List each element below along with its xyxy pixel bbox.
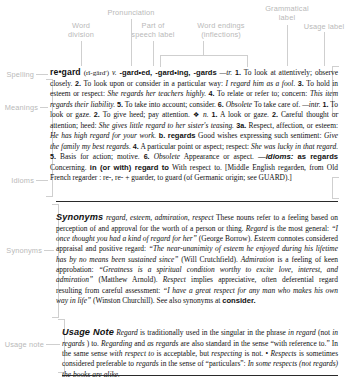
sense-text: To give heed; pay attention. (103, 110, 190, 119)
usage-text: is traditionally used in the singular in… (140, 328, 286, 337)
sense-number: 5. (117, 100, 123, 109)
synonym-attribution: (Matthew Arnold). (98, 275, 157, 284)
sense-example: She was lucky in that regard. (251, 142, 338, 151)
sense-number: 1. (322, 100, 328, 109)
synonyms-heading: Synonyms (56, 212, 103, 222)
leader-word-endings (203, 41, 204, 55)
sense-example: He has high regard for your work. (50, 131, 156, 140)
sense-number: 4. (133, 142, 139, 151)
sense-text: To relate or refer to; concern: (217, 89, 307, 98)
sense-number: 1. (212, 110, 218, 119)
divider-synonyms (56, 201, 338, 202)
idiom-phrase: in (or with) regard to (90, 163, 169, 172)
divider-bottom (62, 375, 338, 376)
dictionary-entry: re•gard (rĭ-gärd′) v. -gard•ed, -gard•in… (50, 67, 338, 184)
leader-spelling (36, 74, 48, 75)
usage-text: in the sense of “particulars”: (161, 359, 246, 368)
see-also-text: See also synonyms at (157, 296, 221, 305)
idioms-heading: —idioms: (258, 152, 294, 161)
sense-example: She regards her teachers highly. (108, 89, 207, 98)
leader-pronunciation (131, 19, 132, 66)
sense-text: A look or gaze. (220, 110, 269, 119)
callout-synonyms: Synonyms (0, 246, 42, 255)
transitive-label: —tr. (220, 68, 233, 77)
sense-number: 2. (75, 79, 81, 88)
sense-number: b. (159, 131, 165, 140)
sense-text: Respect, affection, or esteem: (249, 121, 338, 130)
intransitive-label: —intr. (302, 100, 320, 109)
usage-text: is acceptable, but (157, 349, 209, 358)
callout-meanings: Meanings (0, 103, 38, 112)
synonym-text: is the most general: (270, 224, 329, 233)
synonyms-list: regard, esteem, admiration, respect (106, 213, 214, 222)
callout-usage-note: Usage note (0, 340, 44, 349)
part-of-speech-label: v. (112, 68, 117, 77)
sense-number: 5. (50, 152, 56, 161)
sense-number: 3a. (236, 121, 246, 130)
synonym-word: Admiration (241, 255, 275, 264)
sense-text: To take care of. (254, 100, 300, 109)
usage-text: ) to. (87, 339, 99, 348)
usage-phrase: Regarding (101, 339, 132, 348)
synonym-attribution: (George Borrow). (199, 234, 252, 243)
synonym-word: Respect (163, 275, 186, 284)
sense-number: 3. (298, 79, 304, 88)
leader-part-of-speech (153, 41, 154, 66)
callout-pronunciation: Pronunciation (94, 8, 168, 17)
inflections: -gard•ed, -gard•ing, -gards (120, 68, 217, 77)
bracket-word-endings (160, 55, 248, 67)
idiom-definition: Concerning. (50, 163, 87, 172)
sense-text: Basis for action; motive. (60, 152, 140, 161)
callout-usage-label: Usage label (297, 22, 351, 31)
usage-phrase: with respect to (110, 349, 155, 358)
sense-number: 2. (272, 110, 278, 119)
synonym-word: Esteem (254, 234, 275, 243)
leader-word-division (81, 41, 82, 66)
usage-phrase: as regards (147, 339, 178, 348)
sense-text: To take into account; consider. (125, 100, 216, 109)
synonyms-section: Synonyms regard, esteem, admiration, res… (56, 205, 338, 314)
pronunciation: (rĭ-gärd′) (84, 69, 110, 77)
usage-text: (not (318, 328, 330, 337)
synonym-attribution: (Will Crutchfield). (181, 255, 237, 264)
leader-grammatical-label (287, 25, 288, 66)
leader-usage-label (324, 32, 325, 66)
callout-word-division: Word division (54, 21, 108, 39)
usage-phrase: in regard (288, 328, 316, 337)
sense-bold-word: regards (168, 131, 196, 140)
idiom-phrase: as regards (297, 152, 338, 161)
usage-label: Obsolete (154, 152, 180, 161)
sense-text: Appearance or aspect. (184, 152, 254, 161)
sense-number: 6. (144, 152, 150, 161)
usage-phrase: respecting (211, 349, 242, 358)
noun-bullet: ❖ (193, 110, 200, 119)
usage-label: Obsolete (226, 100, 252, 109)
sense-text: A particular point or aspect; respect: (140, 142, 249, 151)
noun-label: n. (203, 110, 209, 119)
sense-number: 2. (94, 110, 100, 119)
headword: re•gard (50, 67, 81, 77)
sense-text: Good wishes expressing such sentiment: (198, 131, 321, 140)
callout-grammatical-label: Grammatical label (255, 4, 319, 22)
usage-phrase: regards (136, 359, 159, 368)
sense-text: To look upon or consider in a particular… (83, 79, 223, 88)
usage-text: is not. • (244, 349, 268, 358)
sense-example: I regard him as a fool. (226, 79, 296, 88)
sense-example: She gives little regard to her sister's … (99, 121, 234, 130)
sense-number: 6. (218, 100, 224, 109)
synonym-attribution: (Winston Churchill). (93, 296, 155, 305)
usage-text: and (134, 339, 145, 348)
sense-number: 4. (209, 89, 215, 98)
sense-number: 1. (235, 68, 241, 77)
usage-word: Regard (116, 328, 138, 337)
usage-phrase: Respects (270, 349, 296, 358)
callout-idioms: Idioms (0, 176, 34, 185)
callout-word-endings: Word endings (inflections) (183, 21, 259, 39)
synonym-word: Regard (246, 224, 268, 233)
callout-spelling: Spelling (0, 70, 34, 79)
idiom-definition: With respect to. (172, 163, 222, 172)
see-also-link[interactable]: consider. (222, 296, 255, 305)
usage-note-heading: Usage Note (62, 327, 114, 337)
